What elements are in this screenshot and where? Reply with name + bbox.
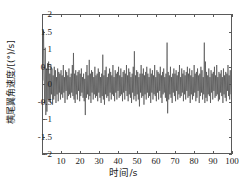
y-tick-label: 1.5 — [41, 27, 52, 37]
y-axis-label: 横尾翼角速度/[(°)/s] — [6, 12, 16, 152]
x-tick-mark — [175, 151, 176, 154]
x-tick-label: 70 — [171, 156, 180, 166]
y-tick-mark — [42, 84, 45, 85]
y-tick-label: 2 — [48, 9, 53, 19]
x-tick-mark — [232, 151, 233, 154]
x-tick-mark — [156, 14, 157, 17]
y-tick-mark — [229, 84, 232, 85]
y-tick-label: -0.5 — [38, 97, 52, 107]
chart-figure: 102030405060708090100-2-1.5-1-0.500.511.… — [0, 0, 247, 182]
y-tick-label: 0.5 — [41, 62, 52, 72]
y-tick-mark — [229, 154, 232, 155]
y-tick-mark — [229, 14, 232, 15]
x-tick-mark — [99, 14, 100, 17]
y-tick-label: 1 — [48, 44, 53, 54]
x-tick-label: 10 — [57, 156, 66, 166]
y-tick-mark — [229, 137, 232, 138]
x-tick-mark — [194, 14, 195, 17]
x-tick-label: 20 — [76, 156, 85, 166]
x-tick-label: 100 — [225, 156, 239, 166]
y-tick-label: -1.5 — [38, 132, 52, 142]
x-tick-label: 80 — [190, 156, 199, 166]
x-tick-mark — [156, 151, 157, 154]
x-tick-mark — [137, 14, 138, 17]
y-tick-mark — [42, 14, 45, 15]
y-tick-mark — [229, 32, 232, 33]
series-line — [43, 15, 231, 153]
y-tick-label: -1 — [45, 114, 53, 124]
x-tick-mark — [137, 151, 138, 154]
x-tick-mark — [99, 151, 100, 154]
y-tick-mark — [229, 102, 232, 103]
x-tick-mark — [61, 151, 62, 154]
y-tick-mark — [229, 49, 232, 50]
y-tick-mark — [42, 49, 45, 50]
x-tick-mark — [175, 14, 176, 17]
x-tick-mark — [61, 14, 62, 17]
x-tick-label: 90 — [209, 156, 218, 166]
y-tick-label: 0 — [48, 79, 53, 89]
x-axis-label: 时间/s — [0, 167, 247, 178]
x-tick-mark — [80, 151, 81, 154]
x-tick-label: 50 — [133, 156, 142, 166]
x-tick-label: 30 — [95, 156, 104, 166]
x-tick-mark — [194, 151, 195, 154]
x-tick-label: 60 — [152, 156, 161, 166]
x-tick-mark — [118, 151, 119, 154]
plot-area — [42, 14, 232, 154]
x-tick-label: 40 — [114, 156, 123, 166]
x-tick-mark — [213, 151, 214, 154]
x-tick-mark — [213, 14, 214, 17]
y-tick-mark — [229, 119, 232, 120]
x-tick-mark — [118, 14, 119, 17]
y-tick-mark — [229, 67, 232, 68]
x-tick-mark — [80, 14, 81, 17]
y-tick-label: -2 — [45, 149, 53, 159]
x-tick-mark — [232, 14, 233, 17]
